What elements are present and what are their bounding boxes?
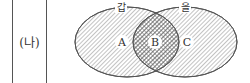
region-b-label: B — [151, 36, 159, 49]
venn-diagram: 갑 을 A B C — [0, 0, 250, 83]
set-eul-label: 을 — [181, 2, 190, 13]
region-a-label: A — [117, 36, 127, 49]
region-c-label: C — [183, 36, 191, 49]
set-gap-label: 갑 — [117, 2, 126, 13]
